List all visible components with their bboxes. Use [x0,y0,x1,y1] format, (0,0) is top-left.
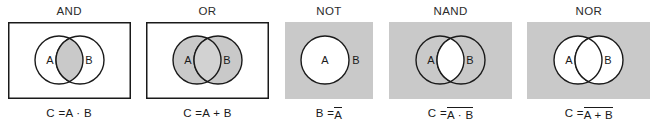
circle-label-b-and: B [85,54,92,66]
circle-label-a-and: A [46,54,54,66]
formula-part: A · B [65,107,91,119]
circle-label-a-nor: A [566,54,574,66]
circle-label-b-or: B [223,54,230,66]
formula-part: C = [46,107,65,119]
gate-panel-nand: NANDABC = A · B [381,0,519,130]
gate-title-nand: NAND [434,0,468,22]
formula-part: C = [428,107,447,119]
gate-formula-nor: C = A + B [565,99,613,127]
formula-part-negated: A [334,107,342,121]
gate-formula-or: C = A + B [183,99,231,127]
venn-diagram-nor: AB [527,22,650,99]
circle-label-a-not: A [321,54,329,66]
formula-part-negated: A · B [447,107,473,121]
gate-formula-not: B = A [316,99,342,127]
formula-part: A + B [202,107,231,119]
circle-label-a-nand: A [427,54,435,66]
venn-diagram-nand: AB [389,22,512,99]
circle-label-b-not: B [352,54,359,66]
circle-label-a-or: A [184,54,192,66]
gate-formula-and: C = A · B [46,99,92,127]
gate-panel-and: ANDABC = A · B [0,0,138,130]
venn-diagram-not: AB [285,22,373,99]
gate-panel-or: ORABC = A + B [138,0,276,130]
circle-label-b-nor: B [605,54,612,66]
venn-diagram-or: AB [146,22,269,99]
gate-title-not: NOT [316,0,341,22]
gate-panel-not: NOTABB = A [277,0,382,130]
venn-diagram-and: AB [8,22,131,99]
gate-title-and: AND [56,0,81,22]
formula-part: C = [565,107,584,119]
gate-title-or: OR [198,0,216,22]
gate-formula-nand: C = A · B [428,99,474,127]
formula-part: B = [316,107,334,119]
gate-panel-nor: NORABC = A + B [520,0,658,130]
circle-label-b-nand: B [466,54,473,66]
logic-gate-venn-figure: ANDABC = A · BORABC = A + BNOTABB = ANAN… [0,0,658,130]
gate-title-nor: NOR [575,0,602,22]
formula-part: C = [183,107,202,119]
formula-part-negated: A + B [584,107,613,121]
